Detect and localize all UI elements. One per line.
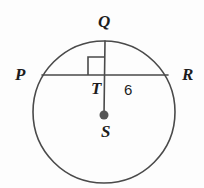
point-label-r: R [182,66,193,83]
point-label-t: T [91,80,101,97]
point-label-q: Q [98,13,110,30]
point-label-p: P [15,66,25,83]
segment-length-label-tr: 6 [124,82,132,97]
geometry-figure: Q P R T S 6 [0,0,204,188]
right-angle-marker-icon [88,57,105,75]
segment-QS [104,41,105,115]
center-point-dot [100,111,109,120]
point-label-s: S [101,123,110,140]
